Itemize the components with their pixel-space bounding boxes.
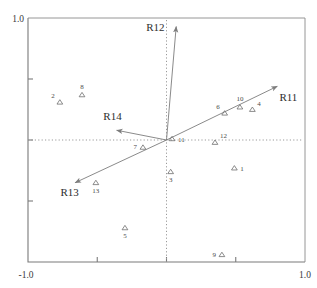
point-label-2: 2 [51,92,55,100]
biplot-chart: 12345678910111213 R11R12R13R14 1.0-1.01.… [0,0,317,288]
vector-label-r13: R13 [60,186,79,198]
point-label-4: 4 [257,100,261,108]
point-label-5: 5 [123,232,127,240]
x-axis-min-label: -1.0 [18,270,33,280]
point-label-8: 8 [80,83,84,91]
point-label-3: 3 [169,176,173,184]
y-axis-max-label: 1.0 [12,14,24,24]
point-label-6: 6 [216,103,220,111]
vector-label-r12: R12 [146,21,164,33]
point-label-1: 1 [240,165,244,173]
point-label-9: 9 [212,251,216,259]
point-label-11: 11 [178,136,185,144]
point-label-10: 10 [236,95,244,103]
vector-label-r14: R14 [103,110,122,122]
vector-label-r11: R11 [279,91,297,103]
x-axis-max-label: 1.0 [299,270,311,280]
point-label-7: 7 [133,143,137,151]
point-label-13: 13 [92,187,100,195]
point-label-12: 12 [220,132,228,140]
biplot-canvas: 12345678910111213 R11R12R13R14 1.0-1.01.… [0,0,317,288]
